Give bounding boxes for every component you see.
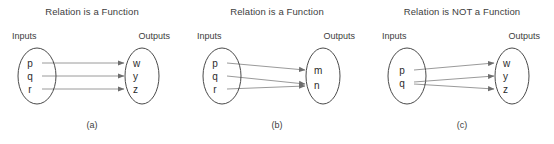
panel-a-output-node-0: w xyxy=(132,58,141,69)
mapping-line-q-z xyxy=(414,84,494,89)
panel-b-input-node-0: p xyxy=(212,58,218,69)
panel-a-output-node-2: z xyxy=(133,84,138,95)
panel-c-diagram: p q w y z xyxy=(370,46,554,112)
mapping-line-p-w xyxy=(414,63,494,70)
panel-b-mapping-lines xyxy=(227,63,305,89)
panel-a-diagram: p q r w y z xyxy=(0,46,184,112)
panel-c-input-set-ellipse xyxy=(388,48,426,104)
function-relation-figure: Relation is a Function Inputs Outputs xyxy=(0,0,554,144)
panel-c-output-node-1: y xyxy=(503,71,508,82)
panel-c-output-set-ellipse xyxy=(495,48,529,104)
panel-a-outputs-label: Outputs xyxy=(138,31,170,41)
panel-a-input-node-0: p xyxy=(27,58,33,69)
panel-a-output-set-ellipse xyxy=(125,48,159,104)
panel-b-output-set-ellipse xyxy=(306,48,340,104)
panel-c-caption: (c) xyxy=(370,120,554,130)
panel-a-input-node-1: q xyxy=(27,71,33,82)
panel-b-input-node-2: r xyxy=(213,84,217,95)
panel-c-output-node-2: z xyxy=(503,84,508,95)
panel-c-inputs-label: Inputs xyxy=(382,31,407,41)
panel-b: Relation is a Function Inputs Outputs p xyxy=(185,0,369,144)
panel-a-caption: (a) xyxy=(0,120,184,130)
panel-a-output-node-1: y xyxy=(133,71,138,82)
panel-b-output-node-0: m xyxy=(314,65,322,76)
panel-a: Relation is a Function Inputs Outputs xyxy=(0,0,184,144)
panel-b-title: Relation is a Function xyxy=(185,6,369,17)
mapping-line-q-n xyxy=(227,76,305,84)
panel-c-input-node-1: q xyxy=(399,78,405,89)
panel-b-inputs-label: Inputs xyxy=(197,31,222,41)
panel-c-input-node-0: p xyxy=(399,65,405,76)
panel-a-input-node-2: r xyxy=(28,84,32,95)
panel-b-input-node-1: q xyxy=(212,71,218,82)
panel-a-mapping-lines xyxy=(42,63,124,89)
panel-b-outputs-label: Outputs xyxy=(323,31,355,41)
panel-c: Relation is NOT a Function Inputs Output… xyxy=(370,0,554,144)
panel-b-input-set-ellipse xyxy=(203,48,241,104)
panel-a-title: Relation is a Function xyxy=(0,6,184,17)
panel-c-output-node-0: w xyxy=(502,58,511,69)
panel-b-output-node-1: n xyxy=(314,80,320,91)
mapping-line-p-m xyxy=(227,63,305,70)
panel-a-inputs-label: Inputs xyxy=(12,31,37,41)
panel-c-title: Relation is NOT a Function xyxy=(370,6,554,17)
panel-c-outputs-label: Outputs xyxy=(508,31,540,41)
panel-b-caption: (b) xyxy=(185,120,369,130)
panel-b-diagram: p q r m n xyxy=(185,46,369,112)
